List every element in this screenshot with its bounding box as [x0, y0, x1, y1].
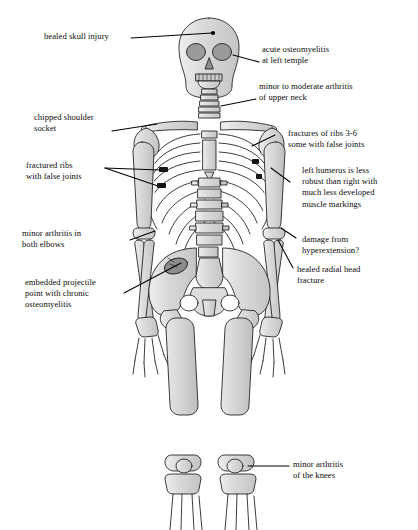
- hands: [133, 317, 285, 377]
- label-knee-arthritis: minor arthritis of the knees: [293, 459, 343, 481]
- label-upper-neck-arthritis: minor to moderate arthritis of upper nec…: [259, 81, 353, 103]
- skull: [179, 18, 239, 98]
- label-healed-radial-head: healed radial head fracture: [297, 264, 360, 286]
- label-healed-skull-injury: healed skull injury: [44, 31, 109, 42]
- skeleton-diagram: healed skull injury acute osteomyelitis …: [0, 0, 418, 530]
- label-elbow-arthritis: minor arthritis in both elbows: [22, 228, 81, 250]
- label-acute-osteomyelitis: acute osteomyelitis at left temple: [262, 44, 329, 66]
- label-left-humerus-robusticity: left humerus is less robust than right w…: [302, 165, 377, 210]
- label-fractured-ribs-false-joints: fractured ribs with false joints: [26, 160, 82, 182]
- label-embedded-projectile: embedded projectile point with chronic o…: [25, 277, 96, 311]
- label-hyperextension-damage: damage from hyperextension?: [302, 234, 359, 256]
- cervical-spine: [199, 89, 220, 118]
- lower-legs: [165, 474, 257, 530]
- patellae: [176, 459, 243, 473]
- lumbar-spine: [190, 178, 229, 257]
- sternum: [202, 131, 217, 181]
- femora: [165, 318, 254, 471]
- pelvis: [149, 248, 270, 329]
- label-chipped-shoulder-socket: chipped shoulder socket: [34, 112, 94, 134]
- leader-upper-neck-arthritis: [221, 99, 256, 106]
- label-rib-fractures-3-6: fractures of ribs 3-6 some with false jo…: [288, 128, 364, 150]
